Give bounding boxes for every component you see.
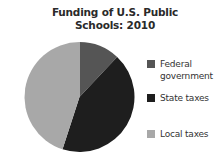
legend-item-local: Local taxes xyxy=(147,128,222,140)
legend-swatch-local xyxy=(147,130,155,138)
legend-swatch-state xyxy=(147,94,155,102)
legend-label-local: Local taxes xyxy=(160,128,222,140)
legend-item-state: State taxes xyxy=(147,92,222,104)
legend-item-federal: Federal government xyxy=(147,58,222,82)
legend-swatch-federal xyxy=(147,60,155,68)
pie-slices xyxy=(25,42,135,152)
legend-label-state: State taxes xyxy=(160,92,222,104)
legend-label-federal: Federal government xyxy=(160,58,222,82)
